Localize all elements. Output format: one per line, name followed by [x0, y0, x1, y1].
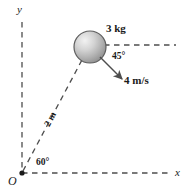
y-axis-label: y [17, 4, 22, 15]
origin-label: O [8, 175, 17, 187]
speed-label: 4 m/s [124, 75, 149, 86]
origin-point [19, 170, 24, 175]
physics-diagram: y x O 3 kg 45° 4 m/s 2 m 60° [0, 0, 185, 192]
position-angle-label: 60° [36, 158, 49, 168]
diagram-canvas [0, 0, 185, 192]
mass-label: 3 kg [106, 23, 126, 34]
x-axis-label: x [175, 167, 180, 178]
velocity-angle-label: 45° [112, 52, 125, 62]
